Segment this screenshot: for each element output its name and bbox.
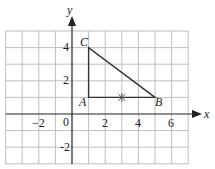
x-tick-label: −2 [32, 116, 45, 130]
vertex-label-a: A [78, 95, 87, 109]
coordinate-diagram: x y 0 −2 2 4 6 4 2 -2 A B C [0, 0, 215, 169]
x-axis-arrow-icon [192, 110, 202, 118]
x-tick-label: 4 [135, 116, 141, 130]
y-axis-label: y [66, 3, 73, 17]
x-tick-label: 6 [168, 116, 174, 130]
vertex-label-b: B [155, 95, 163, 109]
y-tick-label: -2 [60, 140, 70, 154]
y-tick-label: 4 [63, 40, 69, 54]
origin-label: 0 [63, 115, 69, 129]
y-tick-label: 2 [63, 73, 69, 87]
vertex-label-c: C [80, 35, 89, 49]
y-axis-arrow-icon [68, 16, 76, 26]
x-axis-label: x [203, 107, 210, 121]
x-tick-label: 2 [102, 116, 108, 130]
